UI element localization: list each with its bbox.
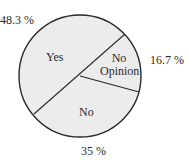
slice-label-no: No (79, 106, 94, 119)
pct-label-yes: 48.3 % (0, 14, 34, 26)
pct-label-no-opinion: 16.7 % (150, 54, 184, 66)
slice-label-no-opinion-line2: Opinion (100, 65, 138, 78)
slice-label-yes: Yes (46, 51, 63, 64)
slice-label-no-opinion: No Opinion (100, 52, 138, 78)
pie-chart: Yes No Opinion No 48.3 % 16.7 % 35 % (0, 0, 189, 162)
pct-label-no: 35 % (81, 145, 106, 157)
